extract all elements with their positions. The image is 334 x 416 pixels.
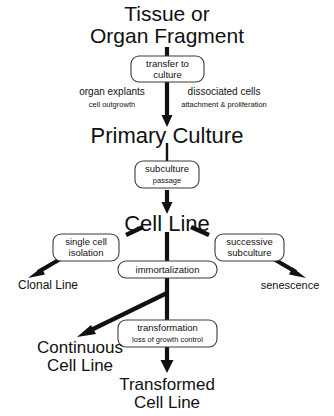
outcome-transformed-cell-line-line1: Transformed bbox=[119, 375, 215, 394]
process-box-transfer-line1: transfer to bbox=[146, 58, 189, 69]
process-box-single-cell-isolation-line2: isolation bbox=[69, 247, 104, 258]
stage-source-line2: Organ Fragment bbox=[90, 24, 244, 47]
stage-cell-line: Cell Line bbox=[124, 211, 210, 236]
route-annotation-right-subtitle: attachment & proliferation bbox=[181, 100, 266, 109]
outcome-continuous-cell-line-line2: Cell Line bbox=[47, 356, 113, 375]
process-box-transformation-line2: loss of growth control bbox=[132, 335, 203, 344]
cell-culture-flowchart: Tissue or Organ Fragment Primary Culture… bbox=[0, 0, 334, 416]
route-annotation-right-title: dissociated cells bbox=[188, 86, 261, 97]
route-annotation-left-subtitle: cell outgrowth bbox=[89, 100, 135, 109]
process-box-subculture-line2: passage bbox=[153, 176, 181, 185]
outcome-senescence: senescence bbox=[261, 279, 320, 291]
stage-source-line1: Tissue or bbox=[124, 2, 210, 25]
outcome-clonal-line: Clonal Line bbox=[18, 278, 78, 292]
process-box-transformation-line1: transformation bbox=[137, 322, 198, 333]
process-box-successive-subculture-line2: subculture bbox=[228, 247, 272, 258]
arrowhead-to-transformed-cell-line bbox=[161, 360, 174, 373]
flowchart-canvas: Tissue or Organ Fragment Primary Culture… bbox=[0, 0, 334, 416]
route-annotation-left-title: organ explants bbox=[79, 86, 145, 97]
process-box-subculture-line1: subculture bbox=[145, 163, 189, 174]
outcome-continuous-cell-line-line1: Continuous bbox=[37, 338, 123, 357]
process-box-successive-subculture-line1: successive bbox=[226, 236, 272, 247]
process-box-immortalization-line1: immortalization bbox=[136, 264, 200, 275]
outcome-transformed-cell-line-line2: Cell Line bbox=[134, 393, 200, 412]
process-box-single-cell-isolation-line1: single cell bbox=[65, 236, 107, 247]
process-box-transfer-line2: culture bbox=[153, 69, 182, 80]
stage-primary-culture: Primary Culture bbox=[91, 123, 244, 148]
